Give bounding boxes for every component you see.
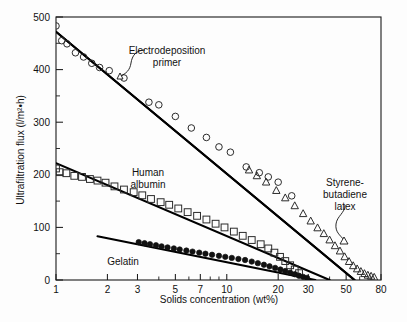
annotation-gelatin: Gelatin: [107, 256, 139, 267]
x-ticklabel: 1: [53, 284, 59, 295]
data-point: [304, 275, 309, 280]
data-point: [153, 243, 158, 248]
x-ticklabel: 2: [105, 284, 111, 295]
data-point: [171, 246, 176, 251]
y-axis-title: Ultrafiltration flux (l/m²•h): [15, 95, 26, 205]
y-ticklabel: 100: [33, 222, 50, 233]
x-ticklabel: 3: [135, 284, 141, 295]
y-ticklabel: 200: [33, 169, 50, 180]
data-point: [249, 259, 254, 264]
data-point: [242, 257, 247, 262]
y-ticklabel: 500: [33, 12, 50, 23]
y-ticklabel: 400: [33, 64, 50, 75]
data-point: [209, 252, 214, 257]
data-point: [236, 256, 241, 261]
y-ticklabel: 0: [44, 275, 50, 286]
data-point: [223, 254, 228, 259]
annotation-human-albumin: Humanalbumin: [130, 167, 165, 190]
data-point: [142, 240, 147, 245]
data-point: [203, 251, 208, 256]
data-point: [255, 260, 260, 265]
data-point: [190, 249, 195, 254]
data-point: [216, 253, 221, 258]
data-point: [272, 265, 277, 270]
figure-container: 0100200300400500 123571020305080 Electro…: [0, 0, 407, 322]
data-point: [159, 244, 164, 249]
data-point: [229, 255, 234, 260]
x-ticklabel: 50: [341, 284, 353, 295]
x-axis-title: Solids concentration (wt%): [160, 294, 278, 305]
data-point: [177, 247, 182, 252]
ultrafiltration-flux-chart: 0100200300400500 123571020305080 Electro…: [0, 0, 407, 322]
data-point: [136, 239, 141, 244]
data-point: [165, 245, 170, 250]
y-ticklabel: 300: [33, 117, 50, 128]
data-point: [197, 250, 202, 255]
x-ticklabel: 80: [375, 284, 387, 295]
data-point: [261, 262, 266, 267]
x-ticklabel: 30: [303, 284, 315, 295]
data-point: [267, 264, 272, 269]
data-point: [147, 242, 152, 247]
data-point: [184, 248, 189, 253]
